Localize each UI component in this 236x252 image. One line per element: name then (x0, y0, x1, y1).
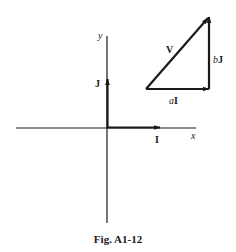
a-i-label: aI (169, 96, 178, 106)
j-vector-symbol: J (218, 54, 223, 65)
unit-i-label: I (155, 135, 159, 145)
vector-decomposition-figure: y x J I V bJ aI Fig. A1-12 (0, 0, 236, 252)
v-vector-arrow (146, 18, 208, 89)
y-axis-label: y (98, 31, 102, 41)
diagram-canvas (0, 0, 236, 252)
figure-caption: Fig. A1-12 (0, 233, 236, 245)
b-j-label: bJ (213, 55, 223, 65)
unit-j-label: J (95, 79, 100, 89)
i-vector-symbol: I (174, 95, 178, 106)
x-axis-label: x (191, 131, 195, 141)
v-vector-label: V (166, 45, 173, 55)
